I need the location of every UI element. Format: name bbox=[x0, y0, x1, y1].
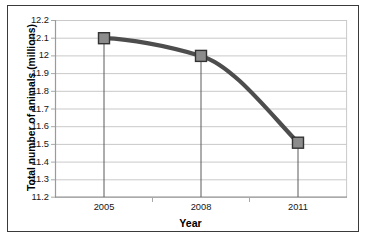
data-point-2005 bbox=[99, 33, 110, 44]
x-tick-label-2011: 2011 bbox=[268, 203, 328, 212]
chart-container: 12.2 12.1 12 11.9 11.8 11.7 11.6 11.5 11… bbox=[0, 0, 366, 238]
y-axis-title: Total number of animals (millions) bbox=[26, 8, 37, 208]
x-tick-label-2008: 2008 bbox=[171, 203, 231, 212]
data-point-2008 bbox=[196, 50, 207, 61]
line-chart-plot bbox=[8, 6, 360, 233]
chart-outer-border: 12.2 12.1 12 11.9 11.8 11.7 11.6 11.5 11… bbox=[7, 5, 359, 232]
y-axis-ticks bbox=[51, 21, 55, 198]
data-point-2011 bbox=[293, 137, 304, 148]
x-tick-label-2005: 2005 bbox=[74, 203, 134, 212]
x-axis-title: Year bbox=[63, 217, 318, 229]
